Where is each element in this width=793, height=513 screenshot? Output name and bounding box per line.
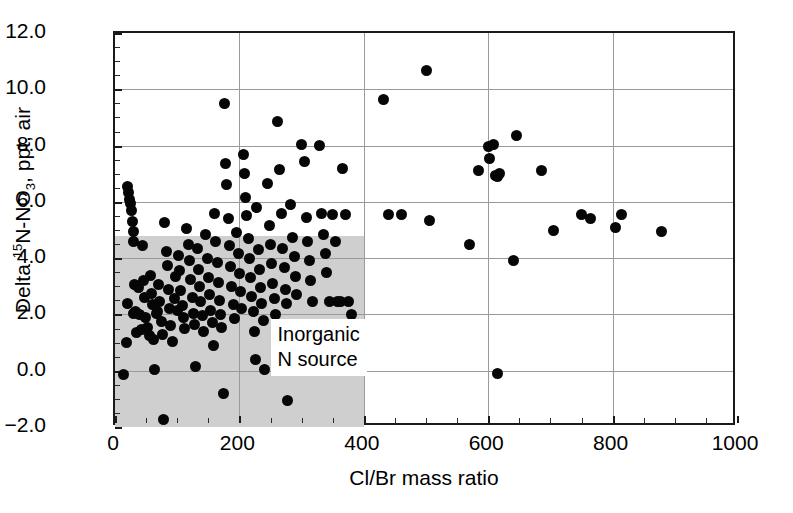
x-tick-major — [488, 416, 490, 423]
y-tick-minor — [115, 399, 120, 400]
data-point — [241, 210, 252, 221]
data-point — [161, 246, 172, 257]
data-point — [223, 213, 234, 224]
data-point — [290, 271, 301, 282]
data-point — [318, 229, 329, 240]
data-point — [289, 251, 300, 262]
x-tick-minor — [271, 418, 272, 423]
data-point — [610, 222, 621, 233]
data-point — [302, 236, 313, 247]
data-point — [616, 209, 627, 220]
x-tick-label: 200 — [220, 432, 255, 453]
data-point — [473, 165, 484, 176]
gridline-horizontal — [115, 89, 733, 90]
data-point — [548, 225, 559, 236]
x-tick-minor — [333, 418, 334, 423]
y-tick-minor — [115, 75, 120, 76]
data-point — [274, 164, 285, 175]
data-point — [383, 209, 394, 220]
x-tick-minor — [177, 418, 178, 423]
x-tick-minor — [457, 418, 458, 423]
data-point — [396, 209, 407, 220]
data-point — [299, 156, 310, 167]
y-tick-minor — [115, 244, 120, 245]
x-tick-minor — [208, 418, 209, 423]
gridline-horizontal — [115, 202, 733, 203]
data-point — [494, 168, 505, 179]
x-tick-major — [737, 416, 739, 423]
y-tick-minor — [115, 61, 120, 62]
x-tick-minor — [395, 418, 396, 423]
x-tick-minor — [302, 418, 303, 423]
y-tick-label: 6.0 — [17, 189, 46, 210]
data-point — [162, 260, 173, 271]
data-point — [126, 205, 137, 216]
x-tick-major — [115, 416, 117, 423]
x-tick-label: 400 — [344, 432, 379, 453]
data-point — [214, 295, 225, 306]
y-tick-minor — [115, 343, 120, 344]
y-tick-minor — [115, 117, 120, 118]
data-point — [280, 284, 291, 295]
data-point — [253, 244, 264, 255]
data-point — [511, 130, 522, 141]
x-tick-minor — [706, 418, 707, 423]
x-tick-minor — [550, 418, 551, 423]
data-point — [276, 208, 287, 219]
x-tick-label: 1000 — [712, 432, 759, 453]
data-point — [248, 306, 259, 317]
data-point — [219, 98, 230, 109]
y-tick-major — [115, 202, 122, 204]
data-point — [258, 315, 269, 326]
y-tick-minor — [115, 188, 120, 189]
annotation-line-2: N source — [278, 347, 360, 372]
y-tick-major — [115, 33, 122, 35]
data-point — [421, 65, 432, 76]
y-tick-minor — [115, 47, 120, 48]
y-tick-minor — [115, 357, 120, 358]
y-tick-minor — [115, 385, 120, 386]
data-point — [193, 264, 204, 275]
data-point — [121, 337, 132, 348]
data-point — [340, 209, 351, 220]
x-tick-minor — [146, 418, 147, 423]
y-tick-label: 4.0 — [17, 245, 46, 266]
data-point — [256, 298, 267, 309]
data-point — [536, 165, 547, 176]
x-tick-minor — [519, 418, 520, 423]
x-tick-major — [613, 416, 615, 423]
data-point — [159, 217, 170, 228]
data-point — [378, 94, 389, 105]
data-point — [221, 179, 232, 190]
data-point — [343, 296, 354, 307]
data-point — [202, 253, 213, 264]
data-point — [301, 212, 312, 223]
data-point — [259, 364, 270, 375]
x-tick-major — [364, 416, 366, 423]
data-point — [194, 281, 205, 292]
gridline-vertical — [488, 33, 489, 423]
data-point — [192, 243, 203, 254]
y-tick-label: 0.0 — [17, 358, 46, 379]
y-tick-minor — [115, 413, 120, 414]
plot-area: Inorganic N source — [113, 31, 735, 425]
data-point — [200, 229, 211, 240]
data-point — [316, 208, 327, 219]
data-point — [281, 298, 292, 309]
y-tick-label: 10.0 — [5, 76, 46, 97]
y-tick-minor — [115, 329, 120, 330]
y-tick-minor — [115, 174, 120, 175]
data-point — [173, 250, 184, 261]
y-tick-label: −2.0 — [5, 414, 46, 435]
y-tick-minor — [115, 103, 120, 104]
data-point — [243, 233, 254, 244]
y-tick-major — [115, 427, 122, 429]
data-point — [327, 209, 338, 220]
data-point — [330, 236, 341, 247]
data-point — [492, 368, 503, 379]
data-point — [220, 158, 231, 169]
data-point — [249, 326, 260, 337]
data-point — [585, 213, 596, 224]
data-point — [314, 140, 325, 151]
y-tick-major — [115, 314, 122, 316]
